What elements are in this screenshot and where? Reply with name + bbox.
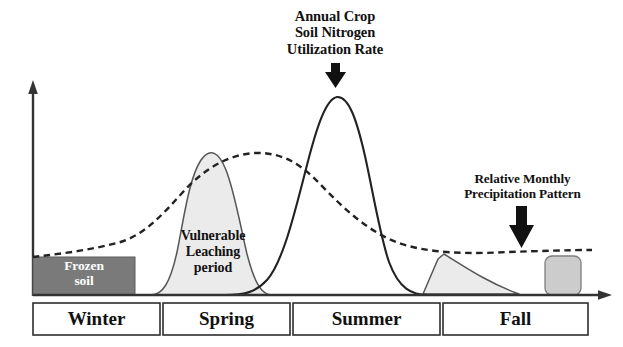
precipitation-arrow-icon (509, 206, 534, 248)
leaching-annotation: Vulnerable Leaching period (167, 228, 259, 275)
series-fall-leaching-fill (423, 254, 519, 294)
precipitation-annotation-line2: Precipitation Pattern (430, 187, 615, 202)
series-precipitation-line (33, 153, 592, 257)
leaching-annotation-line3: period (167, 260, 259, 276)
season-label-winter: Winter (33, 304, 160, 334)
crop-rate-arrow-icon (325, 63, 346, 88)
crop-rate-annotation-line2: Soil Nitrogen (252, 24, 418, 40)
frozen-soil-label-line2: soil (38, 273, 130, 288)
season-label-summer: Summer (293, 304, 440, 334)
season-label-fall: Fall (443, 304, 588, 334)
winter-recharge-block (545, 256, 581, 295)
chart-figure: Annual Crop Soil Nitrogen Utilization Ra… (0, 0, 623, 347)
frozen-soil-label-line1: Frozen (38, 258, 130, 273)
leaching-annotation-line1: Vulnerable (167, 228, 259, 244)
precipitation-annotation-line1: Relative Monthly (430, 172, 615, 187)
leaching-annotation-line2: Leaching (167, 244, 259, 260)
crop-rate-annotation-line3: Utilization Rate (252, 41, 418, 57)
precipitation-annotation: Relative Monthly Precipitation Pattern (430, 172, 615, 202)
crop-rate-annotation: Annual Crop Soil Nitrogen Utilization Ra… (252, 8, 418, 57)
season-label-spring: Spring (163, 304, 290, 334)
crop-rate-annotation-line1: Annual Crop (252, 8, 418, 24)
frozen-soil-label: Frozen soil (38, 258, 130, 289)
